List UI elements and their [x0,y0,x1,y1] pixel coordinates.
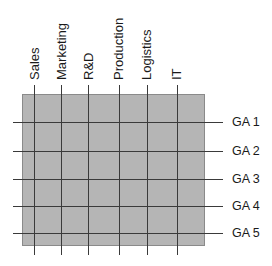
row-label-ga2: GA 2 [232,144,260,158]
column-line-sales [34,85,35,255]
column-line-marketing [61,85,62,255]
row-line-ga2 [13,151,223,152]
column-line-it [177,85,178,255]
row-label-ga1: GA 1 [232,115,260,129]
matrix-diagram: Sales Marketing R&D Production Logistics… [0,0,272,266]
column-label-marketing: Marketing [55,23,69,80]
column-label-production: Production [112,18,126,80]
row-label-ga5: GA 5 [232,226,260,240]
column-line-production [119,85,120,255]
row-label-ga3: GA 3 [232,172,260,186]
column-label-logistics: Logistics [140,29,154,80]
row-line-ga5 [13,233,223,234]
row-line-ga3 [13,179,223,180]
column-label-sales: Sales [28,47,42,80]
column-label-it: IT [170,68,184,80]
row-label-ga4: GA 4 [232,199,260,213]
column-line-logistics [147,85,148,255]
column-line-rnd [88,85,89,255]
column-label-rnd: R&D [82,53,96,80]
row-line-ga1 [13,122,223,123]
row-line-ga4 [13,206,223,207]
